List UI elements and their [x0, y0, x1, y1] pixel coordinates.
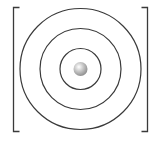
diagram-canvas [0, 0, 160, 141]
right-bracket [142, 8, 148, 132]
left-bracket [14, 8, 20, 132]
concentric-circles-diagram [0, 0, 160, 141]
nucleus-sphere [74, 62, 88, 76]
